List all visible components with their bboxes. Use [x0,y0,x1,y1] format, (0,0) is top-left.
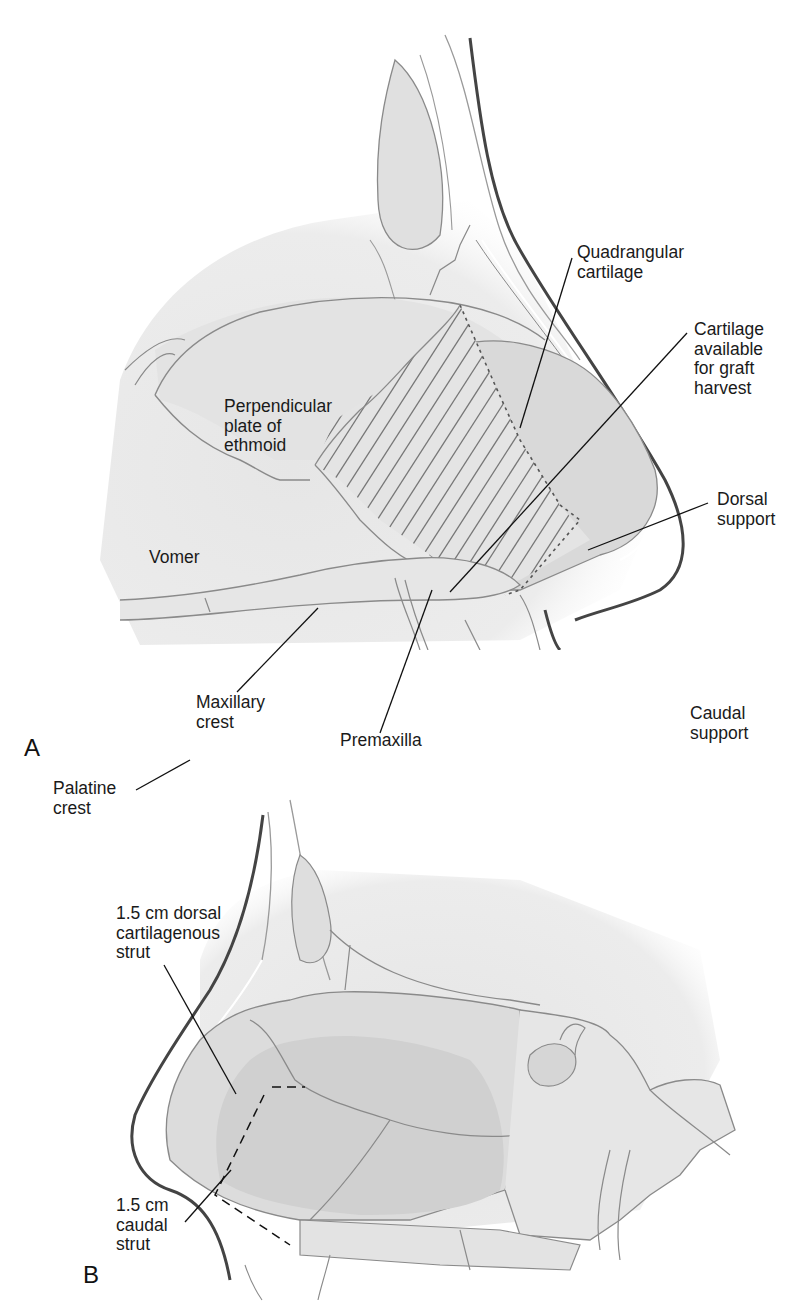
panel-letter-b: B [83,1261,99,1289]
label-dorsal-strut: 1.5 cm dorsal cartilagenous strut [116,904,221,963]
label-caudal-strut: 1.5 cm caudal strut [116,1196,169,1255]
panel-b-illustration [0,0,795,1305]
